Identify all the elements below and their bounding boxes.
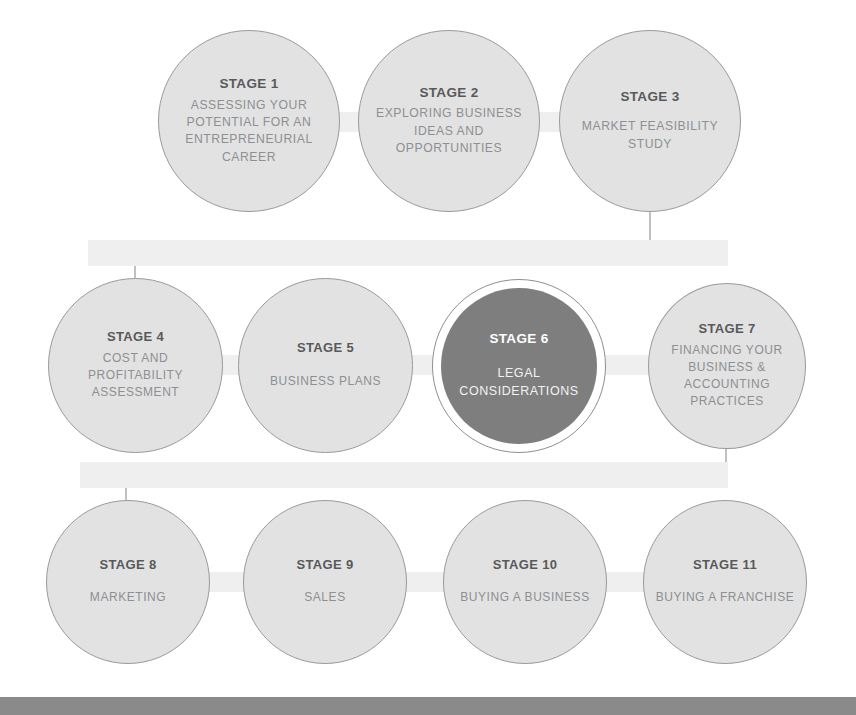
stage-node-5-title: STAGE 5 [297,341,354,356]
stage-node-2-title: STAGE 2 [419,85,478,101]
stage-node-8[interactable]: STAGE 8 MARKETING [46,500,210,664]
stage-node-8-title: STAGE 8 [99,558,156,573]
stage-node-1-desc: ASSESSING YOUR POTENTIAL FOR AN ENTREPRE… [159,97,339,166]
stage-node-6[interactable]: STAGE 6 LEGAL CONSIDERATIONS [441,288,597,444]
stage-node-3[interactable]: STAGE 3 MARKET FEASIBILITY STUDY [559,30,741,212]
stage-node-2[interactable]: STAGE 2 EXPLORING BUSINESS IDEAS AND OPP… [358,30,540,212]
stage-node-3-title: STAGE 3 [620,89,679,105]
stage-node-1[interactable]: STAGE 1 ASSESSING YOUR POTENTIAL FOR AN … [158,30,340,212]
stage-node-5-desc: BUSINESS PLANS [260,373,391,390]
stage-node-5[interactable]: STAGE 5 BUSINESS PLANS [238,278,413,453]
stage-node-10-title: STAGE 10 [493,558,558,573]
bottom-bar [0,697,856,715]
stage-node-7[interactable]: STAGE 7 FINANCING YOUR BUSINESS & ACCOUN… [648,283,806,449]
stage-node-11-title: STAGE 11 [693,558,757,573]
stage-node-10-desc: BUYING A BUSINESS [456,589,593,606]
stage-node-9-desc: SALES [294,589,355,606]
stage-node-9-title: STAGE 9 [296,558,353,573]
connector-band-row2-row3 [80,462,728,488]
stage-node-3-desc: MARKET FEASIBILITY STUDY [560,118,740,153]
stage-node-4-title: STAGE 4 [107,330,164,345]
stage-node-1-title: STAGE 1 [219,76,278,92]
stage-node-4[interactable]: STAGE 4 COST AND PROFITABILITY ASSESSMEN… [48,278,223,453]
stage-node-2-desc: EXPLORING BUSINESS IDEAS AND OPPORTUNITI… [359,105,539,157]
stage-node-8-desc: MARKETING [80,589,176,606]
stage-node-10[interactable]: STAGE 10 BUYING A BUSINESS [443,500,607,664]
stage-node-7-desc: FINANCING YOUR BUSINESS & ACCOUNTING PRA… [649,342,805,410]
stage-node-6-desc: LEGAL CONSIDERATIONS [441,365,597,401]
stage-node-11[interactable]: STAGE 11 BUYING A FRANCHISE [643,500,807,664]
stage-node-9[interactable]: STAGE 9 SALES [243,500,407,664]
stages-flow-diagram: STAGE 1 ASSESSING YOUR POTENTIAL FOR AN … [0,0,856,715]
stage-node-11-desc: BUYING A FRANCHISE [654,589,797,606]
stage-node-7-title: STAGE 7 [698,322,755,337]
stage-node-4-desc: COST AND PROFITABILITY ASSESSMENT [49,350,222,401]
connector-band-row1-row2 [88,240,728,266]
stage-node-6-title: STAGE 6 [489,331,548,347]
